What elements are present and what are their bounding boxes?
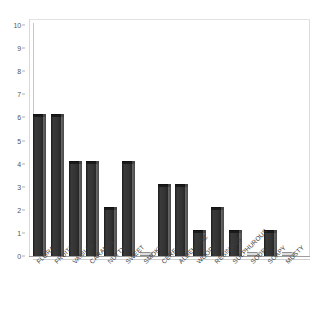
category-axis-label: SOAPY bbox=[266, 244, 287, 265]
bar-chart-figure: 012345678910 FLORALFRUITYVANILLACARAMELN… bbox=[0, 0, 323, 323]
category-axis-label: MUSTY bbox=[284, 244, 305, 265]
category-axis-label: SWEET bbox=[124, 243, 146, 265]
category-axis-label: SMOKY bbox=[142, 243, 164, 265]
category-axis-labels: FLORALFRUITYVANILLACARAMELNUTTYSWEETSMOK… bbox=[0, 0, 323, 323]
